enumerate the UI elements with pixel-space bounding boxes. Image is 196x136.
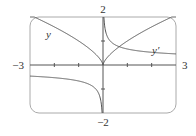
x-max-label: 3 (182, 59, 188, 71)
x-min-label: −3 (12, 59, 24, 71)
y-min-label: −2 (97, 116, 109, 128)
series-label-y: y (45, 28, 51, 40)
curve-yprime-right (104, 17, 176, 54)
y-max-label: 2 (100, 3, 106, 15)
chart: −3 3 2 −2 y y′ (0, 0, 196, 136)
curve-yprime-left (30, 76, 102, 113)
series-label-yprime: y′ (151, 44, 160, 56)
